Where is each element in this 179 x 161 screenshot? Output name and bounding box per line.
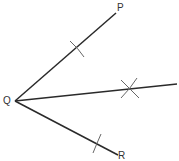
angle-bisector-diagram: P Q R	[0, 0, 179, 161]
ray-qr	[15, 101, 118, 155]
arc-mark-qr	[93, 134, 101, 153]
label-q: Q	[3, 96, 11, 106]
label-r: R	[118, 151, 125, 161]
diagram-svg	[0, 0, 179, 161]
bisector-ray	[15, 84, 177, 101]
label-p: P	[117, 3, 124, 13]
ray-qp	[15, 13, 116, 101]
